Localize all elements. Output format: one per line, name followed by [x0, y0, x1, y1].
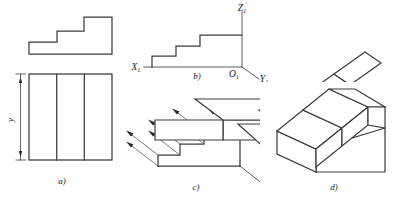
panel-b-step-profile [152, 35, 242, 67]
panel-a-plan-view-outline [29, 74, 112, 160]
panel-a-dimension-arrow-bottom [19, 151, 22, 157]
panel-c-ray-1 [128, 143, 158, 166]
panel-a-dimension-arrow-top [19, 77, 22, 83]
panel-d-step-3-riser [368, 107, 385, 128]
panel-b-y-axis [242, 67, 259, 79]
panel-a-caption: a) [58, 176, 66, 186]
panel-d-step2-riser [155, 120, 223, 140]
panel-b: X1 Z1 O1 Y1 b) [130, 3, 268, 85]
panel-a-front-view-step-profile [29, 17, 112, 54]
panel-a: y a) [5, 17, 112, 186]
technical-drawing-figure: y a) X1 Z1 O1 Y1 [0, 0, 400, 203]
panel-b-caption: b) [193, 71, 201, 81]
panel-b-origin-label: O1 [229, 69, 239, 80]
panel-d-final-caption: d) [330, 182, 338, 192]
panel-b-z-axis-label: Z1 [238, 3, 247, 14]
panel-a-dimension-label: y [5, 118, 15, 123]
panel-d-definitive: d) [260, 82, 400, 194]
panel-c-caption: c) [193, 182, 200, 192]
panel-b-x-axis-label: X1 [130, 62, 140, 73]
figure-root: y a) X1 Z1 O1 Y1 [0, 0, 400, 203]
